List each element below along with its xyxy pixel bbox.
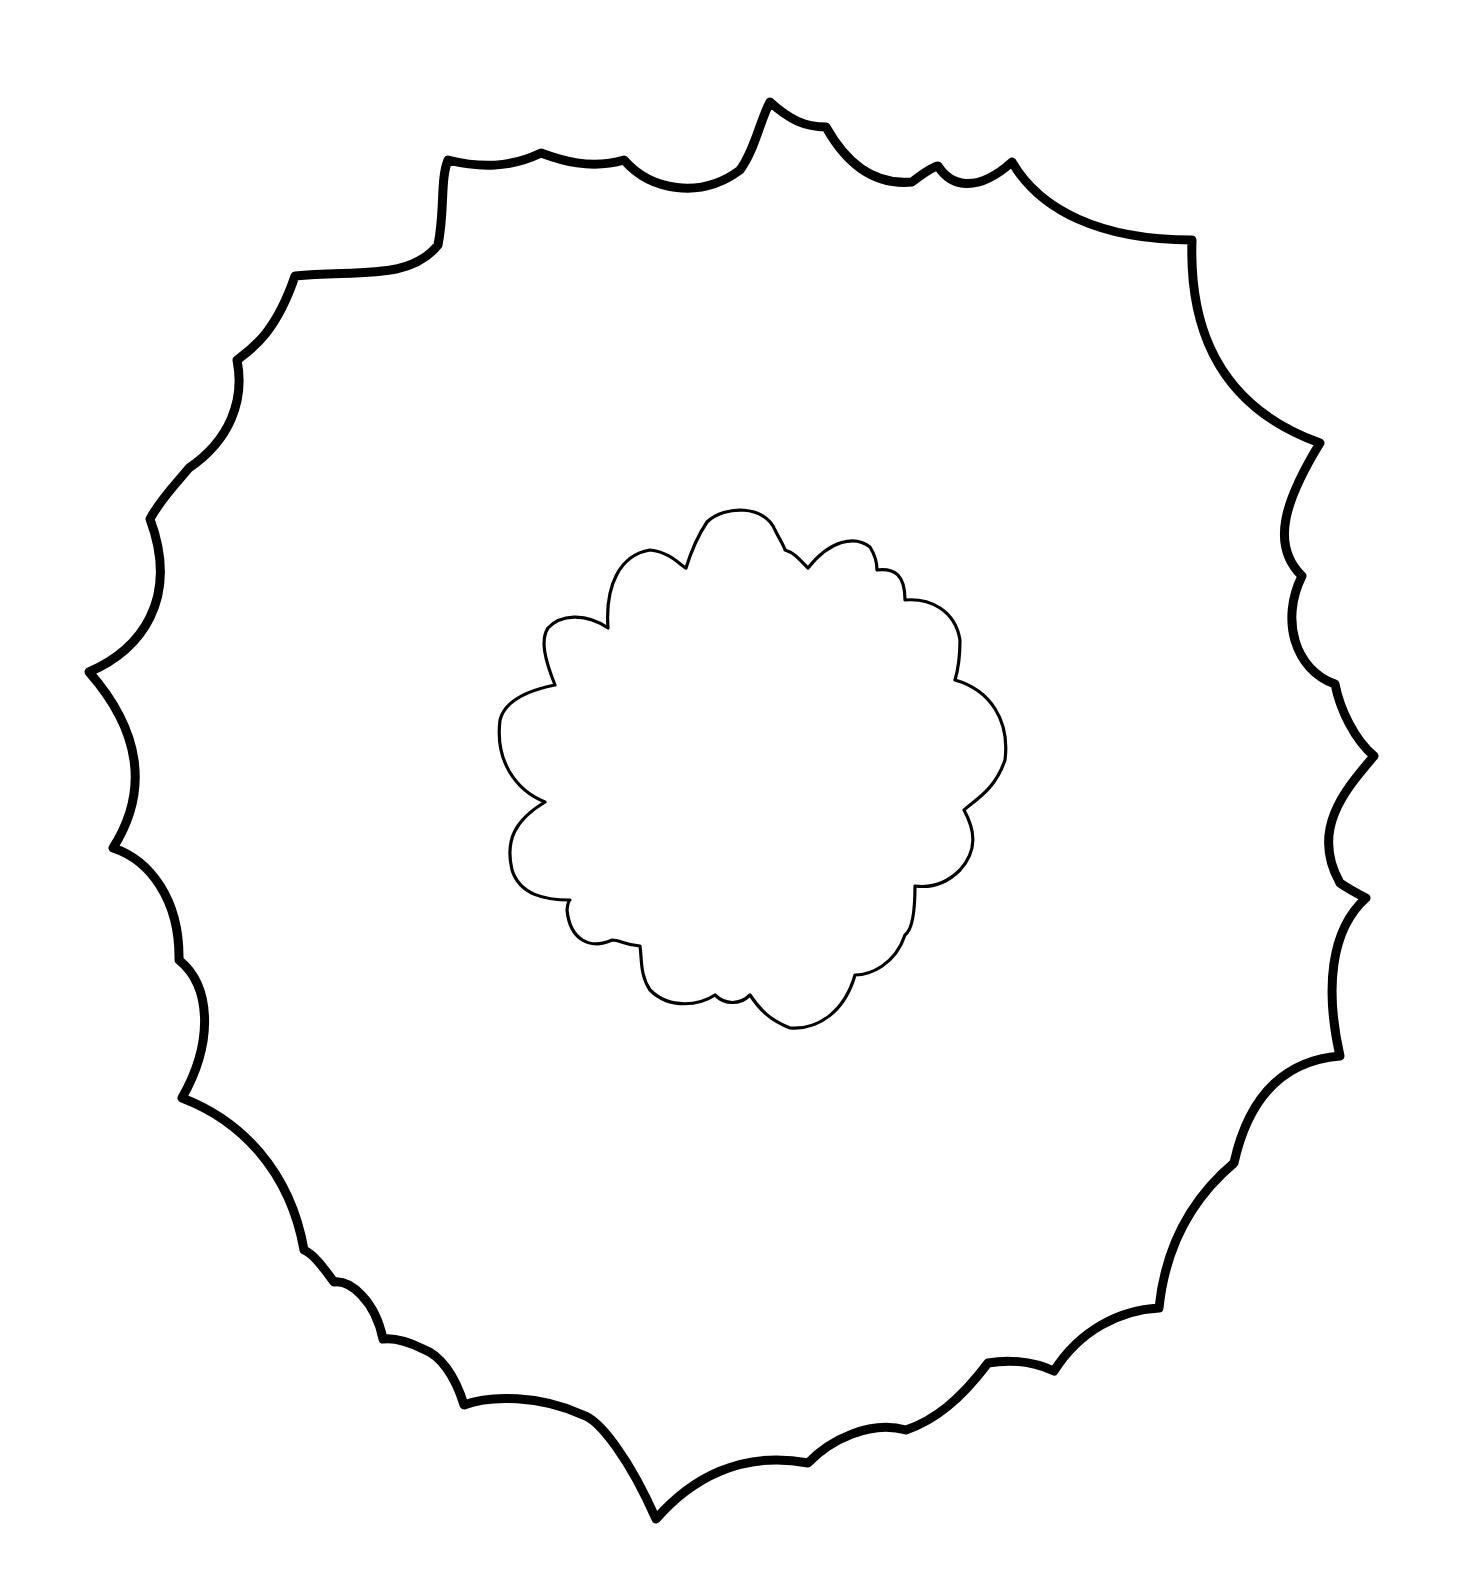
wreath-drawing xyxy=(0,0,1460,1591)
paper-background xyxy=(0,0,1460,1591)
stray-ink-dot xyxy=(431,251,434,254)
